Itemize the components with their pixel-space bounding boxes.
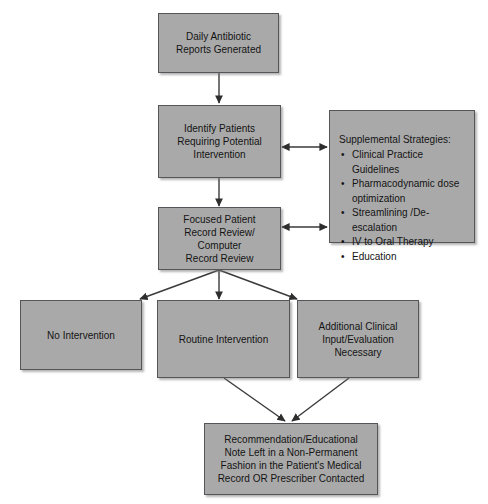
node-line: Intervention	[163, 148, 276, 161]
list-item-label: Education	[352, 251, 396, 262]
flowchart-canvas: Daily Antibiotic Reports Generated Ident…	[0, 0, 488, 504]
list-item-label: Streamlining /De-escalation	[352, 207, 429, 233]
list-item: • Clinical Practice Guidelines	[352, 148, 468, 177]
node-line: No Intervention	[25, 329, 137, 342]
routine-intervention-node[interactable]: Routine Intervention	[157, 300, 290, 378]
bullet-icon: •	[341, 250, 345, 265]
bullet-icon: •	[341, 206, 345, 221]
node-line: Focused Patient	[163, 213, 276, 226]
daily-antibiotic-reports-label: Daily Antibiotic Reports Generated	[159, 30, 278, 56]
list-item: • Streamlining /De-escalation	[352, 206, 468, 235]
no-intervention-label: No Intervention	[21, 329, 141, 342]
identify-patients-node[interactable]: Identify Patients Requiring Potential In…	[158, 105, 281, 178]
list-item-label: IV to Oral Therapy	[352, 236, 434, 247]
node-line: Record Review	[163, 252, 276, 265]
node-line: Additional Clinical	[302, 320, 414, 333]
focused-record-review-node[interactable]: Focused Patient Record Review/ Computer …	[158, 207, 281, 270]
node-line: Necessary	[302, 346, 414, 359]
supplemental-strategies-list: • Clinical Practice Guidelines • Pharmac…	[339, 148, 468, 264]
list-item-label: Clinical Practice Guidelines	[352, 149, 423, 175]
node-line: Identify Patients	[163, 122, 276, 135]
edge-additional-clinical-to-recommendation	[292, 378, 349, 421]
recommendation-note-label: Recommendation/Educational Note Left in …	[205, 433, 377, 485]
supplemental-strategies-node[interactable]: Supplemental Strategies: • Clinical Prac…	[329, 110, 475, 243]
node-line: Input/Evaluation	[302, 333, 414, 346]
node-line: Daily Antibiotic	[163, 30, 274, 43]
no-intervention-node[interactable]: No Intervention	[20, 300, 142, 370]
routine-intervention-label: Routine Intervention	[158, 333, 289, 346]
list-item-label: Pharmacodynamic dose optimization	[352, 178, 459, 204]
edge-record-review-to-no-intervention	[140, 270, 219, 299]
bullet-icon: •	[341, 235, 345, 250]
node-line: Recommendation/Educational	[209, 433, 373, 446]
list-item: • IV to Oral Therapy	[352, 235, 468, 250]
identify-patients-label: Identify Patients Requiring Potential In…	[159, 122, 280, 161]
recommendation-note-node[interactable]: Recommendation/Educational Note Left in …	[204, 423, 378, 495]
node-line: Record Review/	[163, 226, 276, 239]
focused-record-review-label: Focused Patient Record Review/ Computer …	[159, 213, 280, 265]
bullet-icon: •	[341, 148, 345, 163]
node-line: Record OR Prescriber Contacted	[209, 472, 373, 485]
list-item: • Pharmacodynamic dose optimization	[352, 177, 468, 206]
node-line: Computer	[163, 239, 276, 252]
edge-record-review-to-additional-clinical	[219, 270, 297, 299]
node-line: Reports Generated	[163, 43, 274, 56]
node-line: Requiring Potential	[163, 135, 276, 148]
node-line: Routine Intervention	[162, 333, 285, 346]
daily-antibiotic-reports-node[interactable]: Daily Antibiotic Reports Generated	[158, 13, 279, 73]
edge-routine-intervention-to-recommendation	[224, 378, 285, 421]
node-line: Note Left in a Non-Permanent	[209, 446, 373, 459]
node-line: Fashion in the Patient's Medical	[209, 459, 373, 472]
bullet-icon: •	[341, 177, 345, 192]
additional-clinical-input-label: Additional Clinical Input/Evaluation Nec…	[298, 320, 418, 359]
additional-clinical-input-node[interactable]: Additional Clinical Input/Evaluation Nec…	[297, 300, 419, 378]
list-item: • Education	[352, 250, 468, 265]
supplemental-strategies-heading: Supplemental Strategies:	[339, 133, 468, 147]
